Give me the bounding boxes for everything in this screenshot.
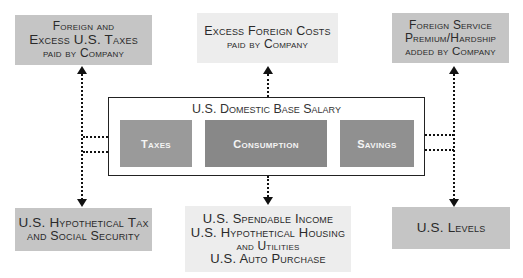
center-bottom-connector: [267, 176, 269, 197]
savings-block: Savings: [340, 120, 414, 167]
box-line: added by Company: [405, 45, 496, 57]
right-vertical-connector: [453, 74, 455, 200]
hypothetical-tax-box: U.S. Hypothetical Tax and Social Securit…: [15, 208, 152, 251]
foreign-service-premium-box: Foreign Service Premium/Hardship added b…: [392, 13, 509, 63]
arrow-up-icon: [77, 66, 87, 74]
us-levels-box: U.S. Levels: [392, 207, 510, 249]
box-line: Premium/Hardship: [405, 32, 496, 45]
arrow-down-icon: [263, 197, 273, 205]
center-top-connector: [267, 74, 269, 97]
domestic-base-salary-box: U.S. Domestic Base Salary Taxes Consumpt…: [108, 97, 425, 176]
box-line: U.S. Auto Purchase: [210, 252, 326, 266]
box-line: U.S. Levels: [417, 221, 486, 235]
box-line: paid by Company: [43, 47, 124, 60]
box-line: U.S. Hypothetical Housing: [191, 226, 345, 240]
box-line: paid by Company: [227, 38, 308, 51]
box-line: Excess U.S. Taxes: [29, 33, 138, 47]
consumption-block: Consumption: [205, 120, 327, 167]
excess-foreign-costs-box: Excess Foreign Costs paid by Company: [197, 13, 338, 63]
arrow-up-icon: [263, 66, 273, 74]
arrow-up-icon: [449, 66, 459, 74]
arrow-down-icon: [449, 199, 459, 207]
box-line: U.S. Hypothetical Tax: [18, 216, 148, 230]
arrow-down-icon: [77, 199, 87, 207]
box-line: U.S. Spendable Income: [203, 212, 334, 226]
box-line: and Social Security: [27, 230, 140, 243]
foreign-excess-taxes-box: Foreign and Excess U.S. Taxes paid by Co…: [15, 15, 152, 65]
domestic-base-salary-title: U.S. Domestic Base Salary: [109, 102, 424, 116]
taxes-block: Taxes: [120, 120, 192, 167]
spendable-income-box: U.S. Spendable Income U.S. Hypothetical …: [185, 206, 351, 272]
